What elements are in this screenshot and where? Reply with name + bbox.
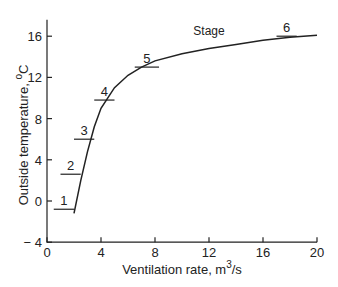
x-axis-label: Ventilation rate, m3/s <box>122 259 242 277</box>
x-tick-label: 0 <box>43 245 50 260</box>
y-tick-label: 0 <box>35 194 42 209</box>
y-tick-label: 16 <box>28 29 42 44</box>
stage-number: 5 <box>143 51 150 66</box>
y-tick-label: 8 <box>35 112 42 127</box>
ticks: 048121620− 40481216 <box>24 29 325 260</box>
x-tick-label: 12 <box>202 245 216 260</box>
x-tick-label: 16 <box>256 245 270 260</box>
stage-number: 2 <box>67 158 74 173</box>
y-tick-label: 4 <box>35 153 42 168</box>
stage-number: 1 <box>60 193 67 208</box>
y-axis-label: Outside temperature, oC <box>13 65 31 206</box>
x-tick-label: 4 <box>97 245 104 260</box>
x-tick-label: 20 <box>310 245 324 260</box>
y-tick-label: − 4 <box>24 235 42 250</box>
stage-number: 6 <box>283 20 290 35</box>
stage-number: 3 <box>81 123 88 138</box>
stage-annotations: 123456Stage <box>54 20 297 209</box>
stage-curve <box>74 35 317 213</box>
stage-number: 4 <box>101 84 108 99</box>
x-tick-label: 8 <box>151 245 158 260</box>
stage-label: Stage <box>193 24 225 38</box>
chart: 048121620− 40481216 123456Stage Ventilat… <box>0 0 338 287</box>
